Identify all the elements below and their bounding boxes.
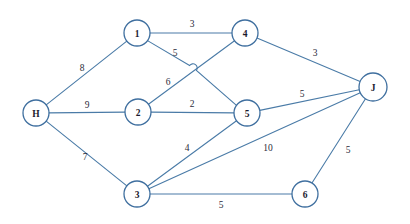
node-2[interactable]: 2 xyxy=(125,99,151,125)
edge-weight-1-5: 5 xyxy=(173,48,178,58)
node-3[interactable]: 3 xyxy=(124,181,150,207)
edge-weight-H-3: 7 xyxy=(83,152,88,162)
node-label-3: 3 xyxy=(135,190,140,200)
edge-weight-2-5: 2 xyxy=(190,99,195,109)
node-label-H: H xyxy=(32,109,40,119)
edge-2-5 xyxy=(151,112,234,113)
node-6[interactable]: 6 xyxy=(292,181,318,207)
edge-weight-5-J: 5 xyxy=(300,89,305,99)
node-J[interactable]: J xyxy=(359,73,387,101)
graph-diagram: H123456J 89735624105355 xyxy=(0,0,410,224)
edge-H-1 xyxy=(46,41,127,105)
node-1[interactable]: 1 xyxy=(124,20,150,46)
edge-weight-3-J: 10 xyxy=(263,143,273,153)
edge-4-J xyxy=(257,38,360,82)
node-4[interactable]: 4 xyxy=(232,20,258,46)
edge-weight-3-5: 4 xyxy=(185,143,190,153)
edge-H-2 xyxy=(49,112,125,113)
node-label-1: 1 xyxy=(135,29,140,39)
edge-weight-H-2: 9 xyxy=(85,100,90,110)
node-5[interactable]: 5 xyxy=(234,100,260,126)
node-H[interactable]: H xyxy=(23,100,49,126)
edge-weight-2-4: 6 xyxy=(166,77,171,87)
edge-2-4 xyxy=(148,41,234,105)
edge-weight-3-6: 5 xyxy=(219,200,224,210)
edge-3-5 xyxy=(147,121,236,187)
graph-svg: H123456J 89735624105355 xyxy=(0,0,410,224)
node-label-4: 4 xyxy=(243,29,248,39)
node-label-J: J xyxy=(371,83,376,93)
edge-weight-1-4: 3 xyxy=(190,19,195,29)
node-label-2: 2 xyxy=(136,108,141,118)
edges-layer xyxy=(46,33,365,194)
edge-weight-4-J: 3 xyxy=(313,48,318,58)
edge-weight-H-1: 8 xyxy=(80,63,85,73)
node-label-5: 5 xyxy=(245,109,250,119)
node-label-6: 6 xyxy=(303,190,308,200)
edge-weight-6-J: 5 xyxy=(346,145,351,155)
nodes-layer: H123456J xyxy=(23,20,387,207)
